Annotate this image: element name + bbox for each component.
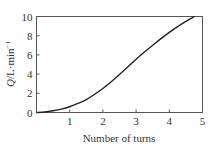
x-tick-label: 4 bbox=[167, 115, 173, 127]
data-line bbox=[37, 17, 195, 113]
y-tick-label: 2 bbox=[27, 87, 33, 99]
y-axis-label: Q/L·min−1 bbox=[4, 41, 16, 87]
x-tick-label: 2 bbox=[100, 115, 106, 127]
y-tick-label: 8 bbox=[27, 30, 33, 42]
plot-frame bbox=[37, 17, 203, 113]
y-tick-label: 0 bbox=[27, 107, 33, 119]
chart: 0246810 12345 Number of turns Q/L·min−1 bbox=[0, 0, 216, 151]
x-axis-label: Number of turns bbox=[83, 132, 156, 144]
y-tick-label: 4 bbox=[27, 68, 33, 80]
x-tick-label: 3 bbox=[133, 115, 139, 127]
x-tick-label: 1 bbox=[67, 115, 73, 127]
x-tick-label: 5 bbox=[200, 115, 206, 127]
y-tick-label: 6 bbox=[27, 49, 33, 61]
y-tick-label: 10 bbox=[22, 11, 34, 23]
